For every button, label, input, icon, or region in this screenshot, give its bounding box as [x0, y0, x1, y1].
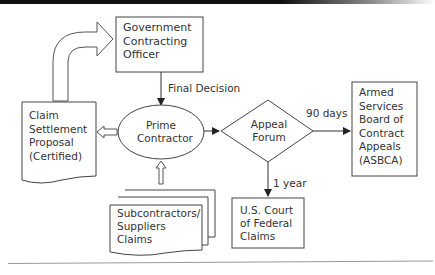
- claim-label: Claim Settlement Proposal (Certified): [29, 109, 87, 163]
- final-decision-label: Final Decision: [168, 82, 240, 95]
- one-year-label: 1 year: [273, 177, 306, 190]
- subs-label: Subcontractors/ Suppliers Claims: [117, 207, 200, 246]
- curved-block-arrow: [53, 22, 113, 101]
- officer-label: Government Contracting Officer: [123, 21, 192, 62]
- court-label: U.S. Court of Federal Claims: [240, 204, 293, 243]
- prime-label: Prime Contractor: [137, 119, 185, 145]
- asbca-label: Armed Services Board of Contract Appeals…: [359, 86, 404, 167]
- forum-label: Appeal Forum: [248, 118, 290, 144]
- hollow-arrow-up: [156, 161, 166, 184]
- ninety-days-label: 90 days: [306, 107, 347, 120]
- hollow-arrow-left: [97, 126, 117, 138]
